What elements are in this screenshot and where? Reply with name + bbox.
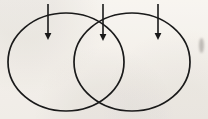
arrow-right — [155, 4, 162, 40]
circle-group — [8, 13, 190, 111]
arrow-left — [45, 4, 52, 40]
arrow-right-head — [155, 33, 162, 40]
figure-canvas — [0, 0, 208, 119]
arrow-group — [45, 4, 162, 41]
left-circle — [8, 13, 124, 111]
arrow-center-head — [100, 34, 107, 41]
arrow-left-head — [45, 33, 52, 40]
right-circle — [74, 13, 190, 111]
overlapping-circles-diagram — [0, 0, 208, 119]
